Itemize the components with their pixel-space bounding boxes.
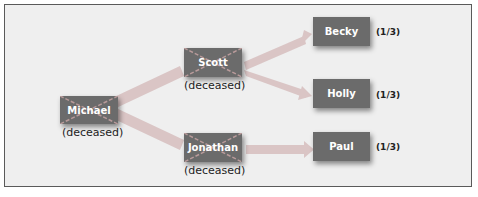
node-label: Becky	[325, 26, 359, 37]
arrow-michael-scott	[112, 66, 184, 108]
status-jonathan: (deceased)	[184, 164, 245, 177]
node-holly: Holly	[313, 79, 370, 108]
status-michael: (deceased)	[62, 126, 123, 139]
node-label: Scott	[198, 57, 228, 68]
arrow-jonathan-paul	[246, 145, 306, 154]
node-becky: Becky	[313, 17, 370, 46]
node-paul: Paul	[313, 132, 370, 161]
node-label: Holly	[327, 88, 356, 99]
status-scott: (deceased)	[184, 79, 245, 92]
share-becky: (1/3)	[376, 27, 400, 37]
node-label: Paul	[329, 141, 353, 152]
node-jonathan: Jonathan	[184, 133, 242, 162]
node-michael: Michael	[60, 96, 118, 124]
arrow-scott-holly	[244, 70, 306, 98]
node-scott: Scott	[184, 48, 242, 77]
node-label: Michael	[67, 105, 110, 116]
share-holly: (1/3)	[376, 90, 400, 100]
node-label: Jonathan	[188, 142, 238, 153]
arrow-scott-becky	[244, 36, 306, 70]
share-paul: (1/3)	[376, 142, 400, 152]
